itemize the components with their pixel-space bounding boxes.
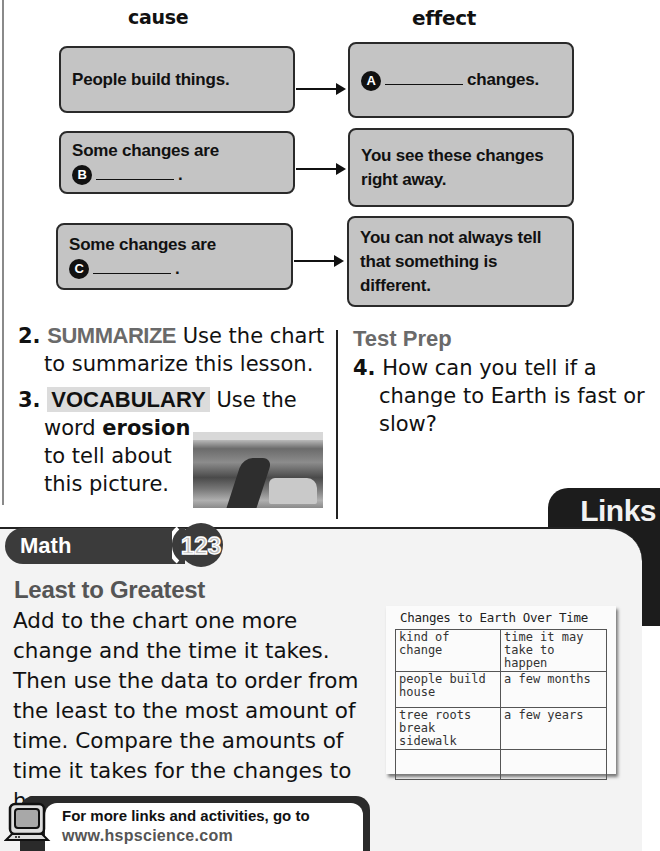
effect-text-3: You can not always tell that something i… <box>360 226 550 298</box>
question-2-line1: Use the chart <box>183 324 325 348</box>
math-activity-title: Least to Greatest <box>14 576 205 604</box>
chart-title: Changes to Earth Over Time <box>400 610 588 625</box>
footer-prompt: For more links and activities, go to <box>62 807 310 824</box>
effect-box-1: Achanges. <box>348 42 574 118</box>
svg-text:123: 123 <box>181 532 221 559</box>
question-2-number: 2. <box>18 324 41 348</box>
changes-table: kind of change time it may take to happe… <box>395 629 607 780</box>
label-a-badge: A <box>361 71 381 91</box>
effect-box-3: You can not always tell that something i… <box>347 216 574 307</box>
links-label: Links <box>580 494 656 528</box>
cause-header: cause <box>128 6 188 28</box>
table-row: people build house a few months <box>396 672 607 708</box>
effect-header: effect <box>344 6 544 30</box>
fill-in-blank-a[interactable] <box>385 71 463 85</box>
table-cell: a few months <box>501 672 607 708</box>
question-3-number: 3. <box>18 388 41 412</box>
table-row <box>396 750 607 780</box>
arrow-right-icon <box>296 88 344 90</box>
test-prep-heading: Test Prep <box>353 326 452 352</box>
question-4-line3: slow? <box>353 410 653 438</box>
table-cell-empty[interactable] <box>396 750 501 780</box>
cause-text-3: Some changes are <box>69 235 216 254</box>
table-row: tree roots break sidewalk a few years <box>396 708 607 750</box>
question-4-number: 4. <box>353 356 376 380</box>
cause-box-3: Some changes are C. <box>56 223 293 290</box>
computer-icon <box>4 800 54 844</box>
arrow-right-icon <box>294 260 342 262</box>
effect-box-2: You see these changes right away. <box>348 128 574 207</box>
footer-links-text: For more links and activities, go to www… <box>62 806 310 846</box>
vocab-word-erosion: erosion <box>102 416 190 440</box>
question-3-word-prefix: word <box>44 416 102 440</box>
numbers-123-icon: 123 <box>172 522 224 568</box>
question-4-line2: change to Earth is fast or <box>353 382 653 410</box>
fill-in-blank-b[interactable] <box>96 166 174 180</box>
table-cell: people build house <box>396 672 501 708</box>
table-cell-empty[interactable] <box>501 750 607 780</box>
cause-text-1: People build things. <box>72 68 230 92</box>
cause-suffix-3: . <box>175 259 180 278</box>
cause-suffix-2: . <box>178 165 183 184</box>
question-4: 4. How can you tell if a change to Earth… <box>353 354 653 438</box>
table-cell: tree roots break sidewalk <box>396 708 501 750</box>
column-divider <box>336 330 338 519</box>
effect-text-1: changes. <box>467 70 539 89</box>
cause-box-2: Some changes are B. <box>59 131 295 194</box>
table-header: time it may take to happen <box>501 630 607 672</box>
cause-box-1: People build things. <box>59 46 295 113</box>
footer-url-link[interactable]: www.hspscience.com <box>62 827 233 844</box>
canyon-erosion-photo <box>193 432 323 508</box>
vocabulary-keyword: VOCABULARY <box>47 387 209 412</box>
arrow-right-icon <box>296 168 344 170</box>
question-4-line1: How can you tell if a <box>382 356 596 380</box>
table-header: kind of change <box>396 630 501 672</box>
question-2: 2. SUMMARIZE Use the chart to summarize … <box>18 322 338 378</box>
math-tab: Math <box>5 528 185 564</box>
effect-text-2: You see these changes right away. <box>361 144 561 192</box>
question-2-line2: to summarize this lesson. <box>18 350 338 378</box>
table-cell: a few years <box>501 708 607 750</box>
question-3-line4: this picture. <box>44 472 169 496</box>
fill-in-blank-c[interactable] <box>93 260 171 274</box>
math-activity-body: Add to the chart one more change and the… <box>13 606 373 816</box>
label-c-badge: C <box>69 259 89 279</box>
cause-text-2: Some changes are <box>72 141 219 160</box>
page-left-rule <box>2 0 4 505</box>
question-3-line1: Use the <box>216 388 296 412</box>
question-3-line3: to tell about <box>44 444 172 468</box>
changes-chart-card: Changes to Earth Over Time kind of chang… <box>386 606 616 774</box>
summarize-keyword: SUMMARIZE <box>47 323 176 348</box>
label-b-badge: B <box>72 165 92 185</box>
